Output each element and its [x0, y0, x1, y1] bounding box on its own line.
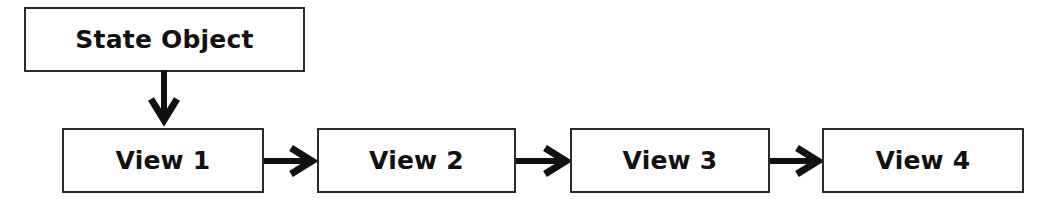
arrow-state-object-to-view-1-icon	[150, 70, 178, 124]
arrow-view-3-to-view-4-icon	[770, 147, 820, 175]
node-view-4[interactable]: View 4	[822, 128, 1024, 193]
node-view-2[interactable]: View 2	[317, 128, 516, 193]
node-view-4-label: View 4	[876, 148, 971, 173]
diagram-canvas: State Object View 1 View 2 View 3	[0, 0, 1042, 210]
node-state-object-label: State Object	[75, 27, 253, 52]
node-state-object[interactable]: State Object	[24, 7, 305, 72]
node-view-3-label: View 3	[623, 148, 718, 173]
node-view-1-label: View 1	[116, 148, 211, 173]
arrow-view-1-to-view-2-icon	[264, 147, 314, 175]
node-view-3[interactable]: View 3	[570, 128, 770, 193]
node-view-1[interactable]: View 1	[62, 128, 264, 193]
arrow-view-2-to-view-3-icon	[516, 147, 568, 175]
node-view-2-label: View 2	[369, 148, 464, 173]
